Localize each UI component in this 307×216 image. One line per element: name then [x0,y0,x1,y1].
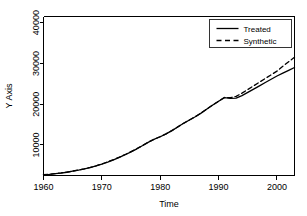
chart-svg: 10000200003000040000 1960197019801990200… [0,0,307,216]
y-tick-label: 30000 [32,51,42,76]
chart-legend: TreatedSynthetic [210,20,292,48]
x-axis-title: Time [159,199,179,209]
x-axis-ticks [44,176,277,180]
x-axis-tick-labels: 19601970198019902000 [33,182,287,192]
y-tick-label: 20000 [32,92,42,117]
x-tick-label: 2000 [267,182,287,192]
legend-label-treated: Treated [244,25,271,34]
series-synthetic [44,57,295,174]
x-tick-label: 1980 [150,182,170,192]
y-axis-ticks [40,23,44,145]
legend-label-synthetic: Synthetic [244,37,277,46]
y-tick-label: 40000 [32,10,42,35]
x-tick-label: 1970 [92,182,112,192]
y-axis-tick-labels: 10000200003000040000 [32,10,42,157]
chart-figure: 10000200003000040000 1960197019801990200… [0,0,307,216]
x-tick-label: 1960 [33,182,53,192]
y-axis-title: Y Axis [4,83,14,108]
x-tick-label: 1990 [209,182,229,192]
y-tick-label: 10000 [32,132,42,157]
data-series-group [44,57,295,174]
